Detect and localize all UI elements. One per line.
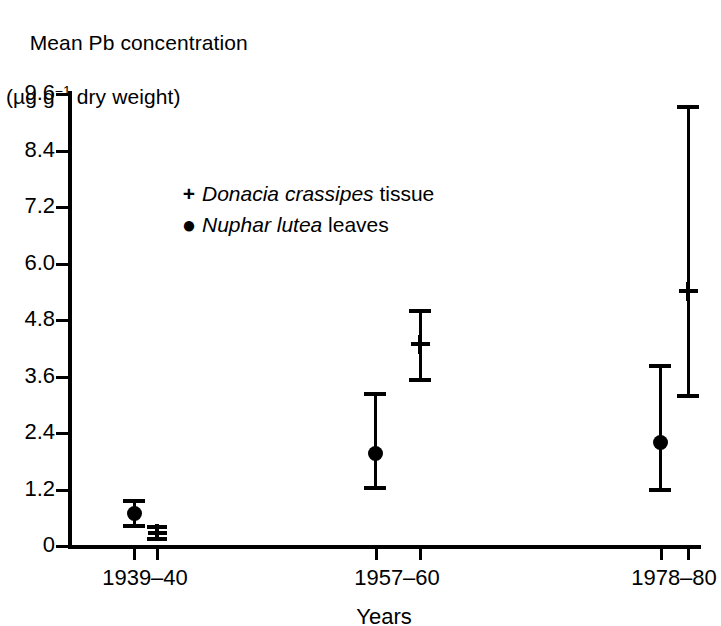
x-tick-mark [156, 545, 159, 560]
error-bar-line [687, 107, 690, 398]
error-bar-cap-upper [649, 364, 671, 368]
y-tick-label: 3.6 [24, 365, 55, 387]
legend-species-name: Donacia crassipes [202, 182, 374, 205]
y-tick-label: 6.0 [24, 252, 55, 274]
error-bar-line [374, 394, 377, 490]
y-tick-mark [56, 376, 72, 379]
x-tick-mark [687, 545, 690, 560]
y-tick-mark [56, 319, 72, 322]
error-bar-cap-lower [364, 486, 386, 490]
y-tick-label: 8.4 [24, 139, 55, 161]
y-tick-label: 4.8 [24, 308, 55, 330]
x-axis-line [68, 545, 701, 549]
legend-item-suffix: leaves [322, 213, 389, 236]
error-bar-line [659, 366, 662, 492]
y-tick-mark [56, 432, 72, 435]
dot-marker-icon: ● [176, 214, 202, 235]
error-bar-cap-upper [364, 392, 386, 396]
y-tick-mark [56, 263, 72, 266]
marker-dot [368, 446, 383, 461]
error-bar-cap-lower [409, 378, 431, 382]
marker-plus [686, 282, 690, 301]
y-tick-mark [56, 206, 72, 209]
x-axis-title: Years [356, 606, 411, 626]
legend: +Donacia crassipes tissue ●Nuphar lutea … [176, 178, 434, 240]
y-tick-mark [56, 93, 72, 96]
y-tick-label: 1.2 [24, 478, 55, 500]
error-bar-cap-upper [409, 309, 431, 313]
error-bar-cap-upper [677, 105, 699, 109]
x-tick-mark [133, 545, 136, 560]
marker-dot [127, 506, 142, 521]
legend-item-suffix: tissue [374, 182, 435, 205]
y-tick-label: 7.2 [24, 195, 55, 217]
marker-dot [653, 435, 668, 450]
legend-item-nuphar: ●Nuphar lutea leaves [176, 209, 434, 240]
x-axis-label-1939-40: 1939–40 [102, 567, 188, 589]
y-tick-mark [56, 545, 72, 548]
y-tick-mark [56, 150, 72, 153]
error-bar-cap-lower [677, 394, 699, 398]
marker-plus [418, 335, 422, 354]
legend-item-donacia: +Donacia crassipes tissue [176, 178, 434, 209]
y-tick-mark [56, 489, 72, 492]
figure-scatter-pb-concentration: Mean Pb concentration (µg g−1 dry weight… [0, 0, 721, 626]
x-tick-mark [660, 545, 663, 560]
x-tick-mark [419, 545, 422, 560]
error-bar-cap-lower [649, 488, 671, 492]
legend-species-name: Nuphar lutea [202, 213, 322, 236]
x-axis-label-1957-60: 1957–60 [354, 567, 440, 589]
plus-marker-icon: + [176, 178, 202, 209]
x-axis-label-1978-80: 1978–80 [631, 567, 717, 589]
plot-area: 0 1.2 2.4 3.6 4.8 6.0 7.2 8.4 [68, 93, 701, 545]
error-bar-cap-lower [123, 524, 145, 528]
y-axis-caption-line1: Mean Pb concentration [30, 31, 248, 54]
y-tick-label: 0 [43, 534, 55, 556]
y-tick-label: 9.6 [24, 82, 55, 104]
error-bar-cap-upper [123, 499, 145, 503]
x-tick-mark [375, 545, 378, 560]
y-tick-label: 2.4 [24, 421, 55, 443]
marker-plus [155, 524, 159, 541]
